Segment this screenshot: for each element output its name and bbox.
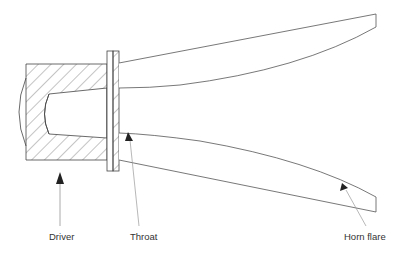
horn-diagram: Driver Throat Horn flare: [0, 0, 405, 257]
throat-flange: [107, 51, 119, 171]
driver-diaphragm: [19, 78, 26, 146]
driver-label: Driver: [49, 231, 74, 242]
driver-body: [26, 64, 107, 160]
driver-pointer: [56, 172, 64, 226]
horn-flare-label: Horn flare: [344, 231, 386, 242]
horn-upper-wall: [119, 14, 376, 88]
horn-lower-wall: [119, 133, 376, 212]
throat-label: Throat: [130, 231, 158, 242]
